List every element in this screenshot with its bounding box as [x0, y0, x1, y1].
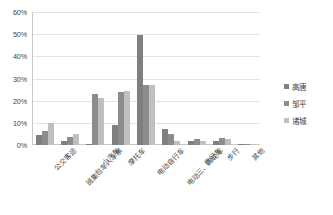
y-axis-tick-label: 20% [13, 96, 27, 105]
bar [73, 134, 79, 145]
legend-item[interactable]: 诸城 [284, 115, 306, 126]
bar-chart: 0%10%20%30%40%50%60% 公交客运班集包车人车票小汽车摩托车电动… [0, 0, 333, 215]
bar [48, 123, 54, 145]
legend-label: 高唐 [292, 81, 306, 92]
y-axis-tick-label: 30% [13, 74, 27, 83]
legend: 高唐邹平诸城 [284, 81, 306, 126]
y-axis-tick-label: 40% [13, 52, 27, 61]
bar [98, 98, 104, 145]
legend-item[interactable]: 高唐 [284, 81, 306, 92]
bar-group [108, 12, 133, 145]
bar-group [83, 12, 108, 145]
y-axis-tick-label: 0% [17, 141, 27, 150]
x-axis-tick-label: 公交客运 [53, 147, 78, 172]
legend-swatch-icon [284, 101, 289, 106]
legend-label: 邹平 [292, 98, 306, 109]
legend-swatch-icon [284, 84, 289, 89]
legend-item[interactable]: 邹平 [284, 98, 306, 109]
x-axis-tick-label: 电动自行车 [156, 147, 186, 177]
x-axis-tick-label: 其他 [251, 147, 266, 162]
bar-group [159, 12, 184, 145]
bar [149, 85, 155, 145]
bar-group [209, 12, 234, 145]
bar [124, 91, 130, 145]
x-axis-tick-label: 摩托车 [127, 147, 147, 167]
bar-group [133, 12, 158, 145]
bars-layer [32, 12, 260, 145]
bar-group [32, 12, 57, 145]
y-axis-tick-label: 10% [13, 118, 27, 127]
bar-group [184, 12, 209, 145]
legend-label: 诸城 [292, 115, 306, 126]
x-axis-labels: 公交客运班集包车人车票小汽车摩托车电动自行车电动三、四轮车自行车步行其他 [32, 145, 260, 215]
bar-group [235, 12, 260, 145]
legend-swatch-icon [284, 118, 289, 123]
y-axis-tick-label: 60% [13, 8, 27, 17]
y-axis-tick-label: 50% [13, 30, 27, 39]
y-axis-labels: 0%10%20%30%40%50%60% [0, 12, 30, 145]
bar-group [57, 12, 82, 145]
x-axis-tick-label: 步行 [226, 147, 241, 162]
